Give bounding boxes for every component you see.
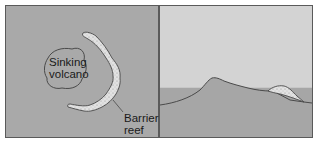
barrier-reef-diagram [0, 0, 318, 150]
reef-label-line-2: reef [124, 124, 159, 136]
cross-section-panel [160, 6, 313, 138]
barrier-reef-label: Barrier reef [124, 112, 159, 136]
volcano-label-line-1: Sinking [49, 56, 89, 68]
reef-label-line-1: Barrier [124, 112, 159, 124]
volcano-label-line-2: volcano [49, 68, 89, 80]
sinking-volcano-label: Sinking volcano [49, 56, 89, 80]
